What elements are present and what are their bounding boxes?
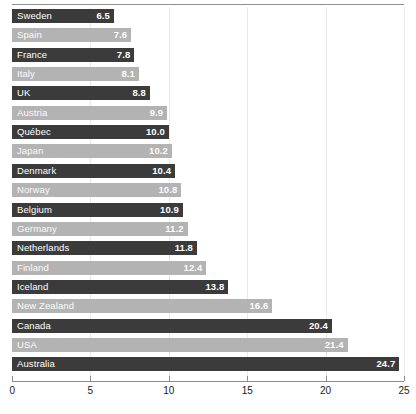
bar-row: Norway10.8 xyxy=(12,183,416,197)
x-tick-15 xyxy=(247,376,248,381)
bar-value-label: 10.8 xyxy=(158,183,177,197)
bar: Canada20.4 xyxy=(12,319,332,333)
bar-value-label: 8.8 xyxy=(132,86,146,100)
top-rule-divider xyxy=(12,4,404,5)
x-tick-label-15: 15 xyxy=(242,385,253,396)
bar: USA21.4 xyxy=(12,338,348,352)
bar-row: Italy8.1 xyxy=(12,67,416,81)
bar-category-label: Italy xyxy=(17,67,35,81)
bar: Sweden6.5 xyxy=(12,9,114,23)
bar-category-label: Japan xyxy=(17,144,43,158)
bar-row: USA21.4 xyxy=(12,338,416,352)
bar: Italy8.1 xyxy=(12,67,139,81)
x-tick-20 xyxy=(326,376,327,381)
bar-row: Finland12.4 xyxy=(12,261,416,275)
bar-category-label: USA xyxy=(17,338,37,352)
plot-area: Sweden6.5Spain7.6France7.8Italy8.1UK8.8A… xyxy=(0,7,416,381)
bar-value-label: 10.2 xyxy=(149,144,168,158)
bar-category-label: Germany xyxy=(17,222,57,236)
bar-value-label: 6.5 xyxy=(96,9,110,23)
bar: Austria9.9 xyxy=(12,106,167,120)
bar-value-label: 10.4 xyxy=(152,164,171,178)
x-tick-0 xyxy=(12,376,13,381)
bar: Spain7.6 xyxy=(12,28,131,42)
bar-value-label: 10.0 xyxy=(146,125,165,139)
bar: Finland12.4 xyxy=(12,261,206,275)
bar-category-label: Québec xyxy=(17,125,51,139)
bar-chart: Sweden6.5Spain7.6France7.8Italy8.1UK8.8A… xyxy=(0,0,416,414)
bar: UK8.8 xyxy=(12,86,150,100)
bar-row: Spain7.6 xyxy=(12,28,416,42)
x-tick-label-0: 0 xyxy=(9,385,15,396)
bar-row: New Zealand16.6 xyxy=(12,299,416,313)
x-tick-10 xyxy=(169,376,170,381)
bar-category-label: Spain xyxy=(17,28,42,42)
bar-category-label: Belgium xyxy=(17,203,52,217)
x-tick-label-25: 25 xyxy=(398,385,409,396)
bar-category-label: New Zealand xyxy=(17,299,74,313)
x-tick-5 xyxy=(90,376,91,381)
x-tick-label-20: 20 xyxy=(320,385,331,396)
bar-value-label: 16.6 xyxy=(249,299,268,313)
bar-value-label: 7.8 xyxy=(117,48,131,62)
bar-value-label: 11.8 xyxy=(175,241,193,255)
bar: Denmark10.4 xyxy=(12,164,175,178)
bar-row: Austria9.9 xyxy=(12,106,416,120)
bar-value-label: 11.2 xyxy=(165,222,183,236)
bar-category-label: Denmark xyxy=(17,164,56,178)
bar-value-label: 20.4 xyxy=(309,319,328,333)
bar-category-label: Canada xyxy=(17,319,51,333)
bar-category-label: Netherlands xyxy=(17,241,69,255)
bar-row: France7.8 xyxy=(12,48,416,62)
x-tick-label-10: 10 xyxy=(163,385,174,396)
bar-value-label: 24.7 xyxy=(376,357,395,371)
bar: Netherlands11.8 xyxy=(12,241,197,255)
bar-row: Québec10.0 xyxy=(12,125,416,139)
bar-value-label: 7.6 xyxy=(114,28,128,42)
x-tick-label-5: 5 xyxy=(88,385,94,396)
bar-row: Iceland13.8 xyxy=(12,280,416,294)
bar-category-label: Australia xyxy=(17,357,55,371)
bar-row: Canada20.4 xyxy=(12,319,416,333)
bar-value-label: 13.8 xyxy=(205,280,224,294)
bar-row: UK8.8 xyxy=(12,86,416,100)
bar-category-label: Norway xyxy=(17,183,50,197)
bar: Japan10.2 xyxy=(12,144,172,158)
bar-value-label: 12.4 xyxy=(184,261,203,275)
bar: Germany11.2 xyxy=(12,222,188,236)
bar-row: Denmark10.4 xyxy=(12,164,416,178)
bar-row: Sweden6.5 xyxy=(12,9,416,23)
bar-category-label: France xyxy=(17,48,47,62)
bar-category-label: Finland xyxy=(17,261,49,275)
bar-row: Netherlands11.8 xyxy=(12,241,416,255)
bar-category-label: UK xyxy=(17,86,30,100)
bar: Australia24.7 xyxy=(12,357,399,371)
bar-value-label: 10.9 xyxy=(160,203,179,217)
bar: Norway10.8 xyxy=(12,183,181,197)
bar-value-label: 8.1 xyxy=(121,67,135,81)
bar-value-label: 9.9 xyxy=(150,106,164,120)
bar-category-label: Austria xyxy=(17,106,47,120)
bar-category-label: Sweden xyxy=(17,9,52,23)
bar-row: Germany11.2 xyxy=(12,222,416,236)
bar-row: Australia24.7 xyxy=(12,357,416,371)
x-axis-line xyxy=(12,381,404,382)
bar: Belgium10.9 xyxy=(12,203,183,217)
bar-category-label: Iceland xyxy=(17,280,48,294)
x-tick-25 xyxy=(404,376,405,381)
bar-row: Belgium10.9 xyxy=(12,203,416,217)
bar: Québec10.0 xyxy=(12,125,169,139)
bar-value-label: 21.4 xyxy=(325,338,344,352)
bar: Iceland13.8 xyxy=(12,280,228,294)
bar: New Zealand16.6 xyxy=(12,299,272,313)
bar: France7.8 xyxy=(12,48,134,62)
bar-row: Japan10.2 xyxy=(12,144,416,158)
